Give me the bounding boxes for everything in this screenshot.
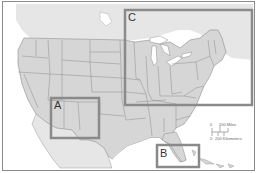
- scale-zero-top: 0: [210, 123, 212, 127]
- scale-zero-bottom: 0: [210, 137, 212, 141]
- scale-miles-label: 200 Miles: [219, 123, 236, 127]
- us-map: [0, 0, 259, 173]
- scale-km-label: 200 Kilometers: [215, 137, 242, 141]
- inset-label-b: B: [160, 148, 167, 159]
- inset-label-a: A: [54, 100, 61, 111]
- scale-bar: [212, 126, 228, 136]
- inset-label-c: C: [128, 12, 136, 23]
